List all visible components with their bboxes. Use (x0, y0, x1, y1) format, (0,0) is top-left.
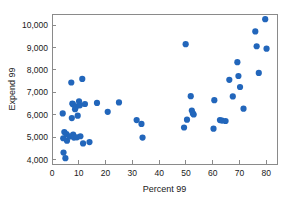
data-point (234, 59, 240, 65)
y-tick-label: 7,000 (27, 87, 49, 97)
data-point (256, 70, 262, 76)
data-point (188, 93, 194, 99)
data-point (86, 139, 92, 145)
x-axis-title: Percent 99 (143, 184, 187, 194)
data-point (94, 100, 100, 106)
data-point (79, 76, 85, 82)
data-point (226, 77, 232, 83)
data-point (184, 117, 190, 123)
data-point (262, 16, 268, 22)
data-point (60, 110, 66, 116)
data-point (60, 149, 66, 155)
data-point (138, 121, 144, 127)
data-point (254, 43, 260, 49)
y-tick-label: 9,000 (27, 43, 49, 53)
y-axis-title: Expend 99 (7, 67, 17, 110)
data-point (82, 101, 88, 107)
data-point (134, 117, 140, 123)
x-tick-label: 40 (154, 168, 164, 178)
x-tick-label: 0 (50, 168, 55, 178)
data-point (235, 73, 241, 79)
data-point (80, 140, 86, 146)
data-point (75, 113, 81, 119)
x-tick-label: 50 (181, 168, 191, 178)
data-point (191, 111, 197, 117)
y-tick-label: 8,000 (27, 65, 49, 75)
data-point (62, 155, 68, 161)
data-point (139, 134, 145, 140)
data-point (263, 46, 269, 52)
scatter-plot-figure: 4,0005,0006,0007,0008,0009,00010,000 010… (0, 0, 293, 199)
x-tick-label: 70 (235, 168, 245, 178)
x-tick-label: 10 (74, 168, 84, 178)
data-point (68, 79, 74, 85)
data-point (181, 124, 187, 130)
data-point (230, 93, 236, 99)
y-tick-label: 10,000 (22, 20, 48, 30)
x-tick-label: 60 (208, 168, 218, 178)
y-tick-label: 4,000 (27, 155, 49, 165)
data-points-layer (60, 16, 270, 161)
x-axis-ticks: 01020304050607080 (50, 160, 272, 178)
y-tick-label: 5,000 (27, 132, 49, 142)
data-point (77, 133, 83, 139)
data-point (240, 106, 246, 112)
data-point (211, 97, 217, 103)
data-point (237, 84, 243, 90)
plot-canvas: 4,0005,0006,0007,0008,0009,00010,000 010… (0, 0, 293, 199)
y-axis-ticks: 4,0005,0006,0007,0008,0009,00010,000 (22, 20, 56, 164)
data-point (105, 109, 111, 115)
data-point (116, 99, 122, 105)
data-point (252, 28, 258, 34)
data-point (183, 41, 189, 47)
plot-frame (52, 14, 277, 164)
y-tick-label: 6,000 (27, 110, 49, 120)
data-point (222, 118, 228, 124)
x-tick-label: 20 (101, 168, 111, 178)
x-tick-label: 30 (128, 168, 138, 178)
data-point (69, 115, 75, 121)
data-point (210, 126, 216, 132)
x-tick-label: 80 (262, 168, 272, 178)
